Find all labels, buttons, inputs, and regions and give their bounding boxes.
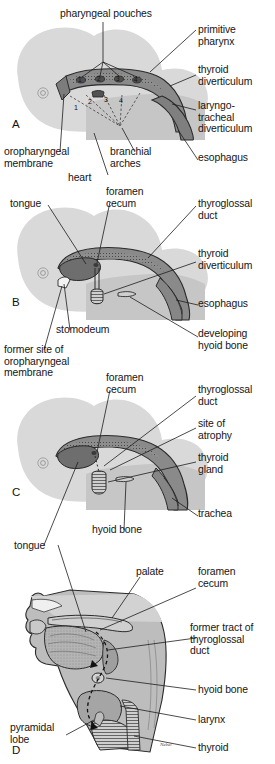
label-former-tract-thyroglossal-duct: former tract of thyroglossal duct — [190, 622, 274, 657]
label-laryngotracheal-diverticulum: laryngo- tracheal diverticulum — [198, 100, 274, 135]
label-hyoid-bone-d: hyoid bone — [198, 684, 274, 696]
label-branchial-arches: branchial arches — [110, 146, 180, 169]
label-thyroid-diverticulum-b: thyroid diverticulum — [198, 248, 274, 271]
label-stomodeum-b: stomodeum — [56, 324, 132, 336]
label-larynx-d: larynx — [198, 714, 274, 726]
thyroid-diverticulum-shape — [92, 91, 104, 98]
label-foramen-cecum-d: foramen cecum — [198, 566, 274, 589]
svg-text:4: 4 — [119, 97, 123, 104]
label-palate-d: palate — [136, 566, 192, 578]
label-pharyngeal-pouches: pharyngeal pouches — [46, 8, 166, 20]
foramen-cecum-c — [91, 451, 96, 455]
foramen-cecum-b — [93, 263, 98, 267]
label-foramen-cecum-c: foramen cecum — [106, 372, 168, 395]
svg-text:3: 3 — [116, 75, 120, 82]
label-site-of-atrophy: site of atrophy — [198, 418, 274, 441]
label-hyoid-bone-c: hyoid bone — [92, 524, 162, 536]
thyroid-diverticulum-b — [91, 289, 103, 304]
svg-text:1: 1 — [78, 76, 82, 83]
label-primitive-pharynx: primitive pharynx — [198, 24, 274, 47]
hyoid-bone-c — [116, 477, 134, 482]
panel-letter-b: B — [12, 296, 20, 308]
label-heart: heart — [68, 172, 118, 184]
svg-text:2: 2 — [88, 98, 92, 105]
label-tongue-b: tongue — [10, 198, 70, 210]
label-developing-hyoid-bone-b: developing hyoid bone — [198, 328, 274, 351]
panel-letter-d: D — [12, 744, 20, 756]
label-former-site-oropharyngeal-membrane: former site of oropharyngeal membrane — [4, 344, 100, 379]
label-thyroglossal-duct-c: thyroglossal duct — [198, 384, 274, 407]
label-pyramidal-lobe: pyramidal lobe — [10, 722, 72, 745]
svg-text:1: 1 — [74, 104, 78, 111]
label-oropharyngeal-membrane: oropharyngeal membrane — [4, 146, 100, 169]
label-thyroid-d: thyroid — [198, 742, 274, 754]
svg-text:2: 2 — [97, 75, 101, 82]
label-tongue-c: tongue — [14, 540, 74, 552]
svg-text:4: 4 — [134, 76, 138, 83]
svg-text:3: 3 — [104, 96, 108, 103]
label-trachea-c: trachea — [198, 508, 274, 520]
figure-plate: 1 2 3 4 1 2 3 4 — [0, 0, 275, 764]
developing-hyoid-bone-b — [118, 292, 136, 297]
thyroid-gland-c — [92, 471, 106, 494]
label-esophagus-a: esophagus — [198, 152, 274, 164]
panel-letter-a: A — [12, 118, 20, 130]
panel-c-drawing — [17, 390, 208, 545]
label-esophagus-b: esophagus — [198, 298, 274, 310]
label-thyroid-diverticulum: thyroid diverticulum — [198, 64, 274, 87]
label-foramen-cecum-b: foramen cecum — [106, 186, 168, 209]
panel-letter-c: C — [12, 486, 20, 498]
label-thyroglossal-duct-b: thyroglossal duct — [198, 198, 274, 221]
label-thyroid-gland-c: thyroid gland — [198, 452, 274, 475]
artist-signature: Nebel — [160, 742, 172, 747]
